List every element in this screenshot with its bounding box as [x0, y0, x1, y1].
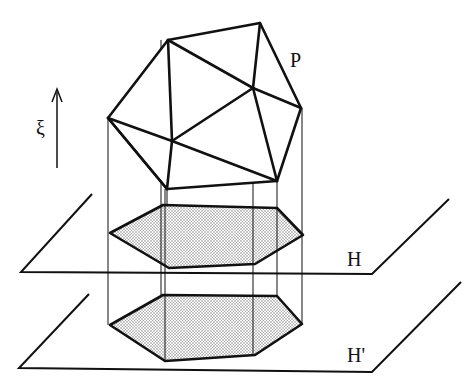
- direction-arrow: [52, 89, 62, 168]
- label-h: H: [347, 248, 361, 270]
- label-h-prime: H': [347, 344, 365, 366]
- label-p: P: [290, 49, 301, 71]
- xi-label: ξ: [36, 117, 45, 139]
- polyhedron-p: [108, 23, 301, 189]
- polyhedron-projection-diagram: ξ P H H': [0, 0, 470, 391]
- projection-on-h: [110, 205, 303, 268]
- projection-on-h-prime: [110, 295, 302, 361]
